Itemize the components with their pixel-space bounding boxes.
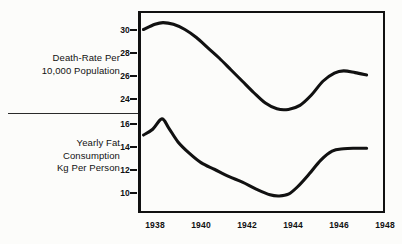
chart-figure: Death-Rate Per 10,000 Population Yearly …: [0, 0, 402, 244]
death-rate-curve: [144, 23, 367, 110]
fat-consumption-curve: [144, 119, 367, 196]
data-curves-layer: [0, 0, 402, 244]
